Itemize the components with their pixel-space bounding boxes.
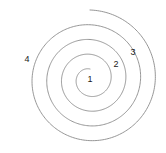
turn-label-2: 2 <box>113 60 118 69</box>
turn-label-1: 1 <box>87 75 92 84</box>
spiral-diagram: 1 2 3 4 <box>0 0 166 153</box>
turn-label-4: 4 <box>24 55 29 64</box>
spiral-path <box>32 10 155 141</box>
turn-label-3: 3 <box>130 48 135 57</box>
spiral-curve-svg <box>0 0 166 153</box>
